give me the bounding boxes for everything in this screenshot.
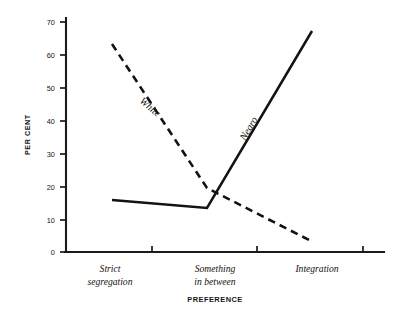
y-axis-tick-labels: 70 60 50 40 30 20 10 0 (47, 18, 55, 257)
y-tick-label-40: 40 (47, 117, 55, 126)
line-chart-canvas: 70 60 50 40 30 20 10 0 PER CENT Strict s… (0, 0, 397, 315)
y-tick-label-0: 0 (51, 248, 55, 257)
y-tick-label-70: 70 (47, 18, 55, 27)
chart-figure: 70 60 50 40 30 20 10 0 PER CENT Strict s… (0, 0, 397, 315)
x-category-2-line1: Something (195, 263, 236, 274)
y-tick-label-20: 20 (47, 183, 55, 192)
y-tick-label-60: 60 (47, 51, 55, 60)
axes-group (65, 18, 384, 252)
x-category-3-line1: Integration (294, 263, 338, 274)
y-axis-title: PER CENT (23, 114, 32, 155)
series-label-negro: Negro (237, 115, 260, 143)
series-line-white (112, 44, 313, 242)
x-category-2-line2: in between (194, 276, 235, 287)
x-axis-title: PREFERENCE (187, 295, 243, 304)
x-category-1-line1: Strict (100, 263, 121, 274)
x-axis-category-labels: Strict segregation Something in between … (88, 263, 339, 287)
x-category-1-line2: segregation (88, 276, 133, 287)
y-tick-label-50: 50 (47, 84, 55, 93)
series-label-white: White (138, 95, 164, 119)
y-tick-label-10: 10 (47, 216, 55, 225)
y-tick-label-30: 30 (47, 150, 55, 159)
series-line-negro (112, 31, 312, 208)
